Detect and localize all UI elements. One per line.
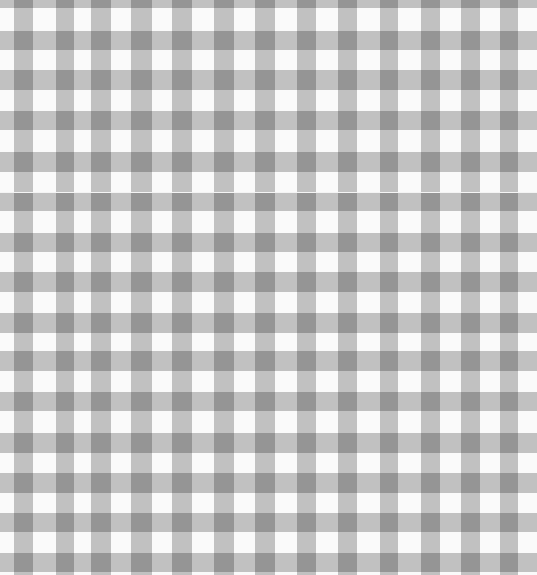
horizontal-stripe (0, 313, 537, 333)
horizontal-stripe (0, 553, 537, 572)
horizontal-stripe (0, 392, 537, 411)
horizontal-stripe (0, 193, 537, 211)
horizontal-stripe (0, 0, 537, 8)
horizontal-stripe (0, 272, 537, 292)
fabric-seam (0, 192, 537, 193)
horizontal-stripe (0, 433, 537, 453)
gingham-fabric (0, 0, 537, 575)
horizontal-stripe (0, 351, 537, 371)
horizontal-stripe (0, 152, 537, 172)
horizontal-stripe (0, 111, 537, 130)
horizontal-stripe (0, 513, 537, 532)
horizontal-stripe (0, 70, 537, 90)
horizontal-stripe (0, 31, 537, 50)
horizontal-stripe (0, 233, 537, 252)
horizontal-stripe (0, 473, 537, 493)
